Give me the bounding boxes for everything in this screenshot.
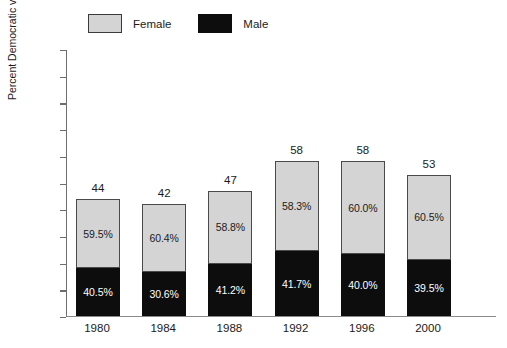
x-axis-tick-label: 1984 bbox=[133, 322, 193, 334]
bar-stack: 60.0%40.0% bbox=[341, 161, 385, 316]
bar-total-label: 58 bbox=[275, 144, 319, 156]
bar-segment-female[interactable]: 58.3% bbox=[275, 161, 319, 251]
bar-total-label: 58 bbox=[341, 144, 385, 156]
bar-segment-male[interactable]: 39.5% bbox=[407, 260, 451, 316]
bar-group[interactable]: 60.4%30.6%42 bbox=[142, 204, 186, 316]
x-axis-tick-label: 1980 bbox=[67, 322, 127, 334]
bar-segment-label-male: 30.6% bbox=[150, 288, 179, 300]
bar-stack: 58.3%41.7% bbox=[275, 161, 319, 316]
bar-total-label: 47 bbox=[208, 174, 252, 186]
bar-segment-female[interactable]: 60.5% bbox=[407, 175, 451, 261]
bar-total-label: 42 bbox=[142, 187, 186, 199]
bar-group[interactable]: 60.5%39.5%53 bbox=[407, 175, 451, 317]
x-axis-tick-label: 2000 bbox=[398, 322, 458, 334]
bar-segment-label-female: 59.5% bbox=[83, 228, 112, 240]
y-axis-tick-mark bbox=[60, 317, 66, 318]
plot-area: 59.5%40.5%4460.4%30.6%4258.8%41.2%4758.3… bbox=[66, 50, 496, 317]
bar-total-label: 53 bbox=[407, 158, 451, 170]
y-axis-title: Percent Democratic vote bbox=[6, 0, 18, 100]
bar-segment-label-male: 40.5% bbox=[83, 286, 112, 298]
legend-item-male: Male bbox=[198, 14, 268, 33]
bar-stack: 58.8%41.2% bbox=[208, 191, 252, 316]
bar-segment-label-female: 60.0% bbox=[348, 202, 377, 214]
legend-swatch-female-icon bbox=[88, 14, 122, 33]
bar-group[interactable]: 59.5%40.5%44 bbox=[76, 199, 120, 316]
bar-segment-male[interactable]: 41.2% bbox=[208, 264, 252, 316]
bar-stack: 60.4%30.6% bbox=[142, 204, 186, 316]
bar-segment-label-male: 40.0% bbox=[348, 279, 377, 291]
bar-group[interactable]: 58.8%41.2%47 bbox=[208, 191, 252, 316]
bar-group[interactable]: 58.3%41.7%58 bbox=[275, 161, 319, 316]
chart-legend: Female Male bbox=[88, 14, 268, 33]
bar-segment-label-male: 41.2% bbox=[216, 284, 245, 296]
legend-label-male: Male bbox=[243, 18, 268, 30]
x-axis-tick-label: 1988 bbox=[199, 322, 259, 334]
bar-total-label: 44 bbox=[76, 182, 120, 194]
stacked-bar-chart: Female Male Percent Democratic vote 0102… bbox=[0, 0, 507, 348]
bar-segment-female[interactable]: 60.4% bbox=[142, 204, 186, 272]
bar-segment-male[interactable]: 40.5% bbox=[76, 268, 120, 316]
bar-segment-female[interactable]: 58.8% bbox=[208, 191, 252, 265]
bar-group[interactable]: 60.0%40.0%58 bbox=[341, 161, 385, 316]
x-axis-tick-label: 1996 bbox=[332, 322, 392, 334]
legend-item-female: Female bbox=[88, 14, 171, 33]
legend-swatch-male-icon bbox=[198, 14, 232, 33]
legend-label-female: Female bbox=[133, 18, 171, 30]
bar-segment-label-male: 39.5% bbox=[414, 282, 443, 294]
x-axis-tick-label: 1992 bbox=[266, 322, 326, 334]
bar-segment-label-female: 58.3% bbox=[282, 200, 311, 212]
bar-segment-label-female: 60.4% bbox=[150, 232, 179, 244]
bar-stack: 59.5%40.5% bbox=[76, 199, 120, 316]
bar-segment-label-female: 60.5% bbox=[414, 211, 443, 223]
bar-segment-male[interactable]: 40.0% bbox=[341, 254, 385, 316]
bar-segment-male[interactable]: 41.7% bbox=[275, 251, 319, 316]
bar-segment-label-male: 41.7% bbox=[282, 278, 311, 290]
bar-segment-label-female: 58.8% bbox=[216, 221, 245, 233]
bar-segment-female[interactable]: 60.0% bbox=[341, 161, 385, 254]
bar-stack: 60.5%39.5% bbox=[407, 175, 451, 317]
bar-segment-female[interactable]: 59.5% bbox=[76, 199, 120, 269]
bar-segment-male[interactable]: 30.6% bbox=[142, 272, 186, 316]
